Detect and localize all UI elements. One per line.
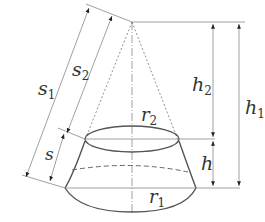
s1-dimension bbox=[26, 8, 89, 177]
label-r1: r1 bbox=[149, 186, 165, 210]
bottom-ellipse-back bbox=[72, 165, 188, 172]
frustum-left-side bbox=[65, 141, 85, 188]
label-s2: s2 bbox=[72, 58, 89, 83]
bottom-ellipse-front bbox=[65, 188, 196, 212]
label-h1: h1 bbox=[245, 96, 265, 121]
apex-line-left bbox=[85, 22, 132, 140]
label-s: s bbox=[45, 144, 54, 164]
slant-ref-line-mid bbox=[58, 128, 85, 139]
label-r2: r2 bbox=[141, 104, 157, 128]
frustum-right-side bbox=[179, 141, 196, 188]
slant-ref-line-top bbox=[86, 4, 132, 22]
label-h2: h2 bbox=[192, 73, 212, 98]
label-h: h bbox=[201, 152, 213, 174]
frustum-diagram: s1 s2 s h2 h1 h r2 r1 bbox=[0, 0, 265, 222]
label-s1: s1 bbox=[38, 77, 55, 102]
slant-ref-line-bottom bbox=[22, 175, 65, 188]
